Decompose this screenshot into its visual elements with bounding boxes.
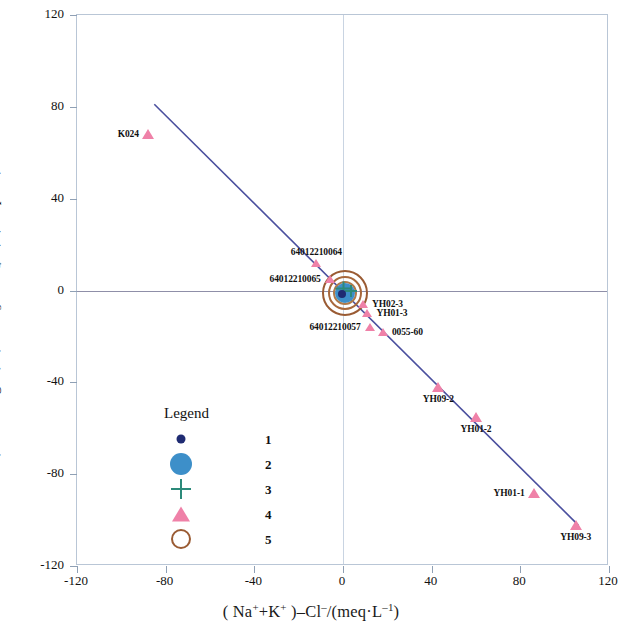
y-tick-label: 40 (0, 190, 64, 206)
data-point-label: 64012210057 (309, 322, 360, 332)
x-tick-mark (254, 566, 255, 573)
legend-item-label: 4 (265, 507, 272, 523)
filled-circle-icon (170, 453, 192, 475)
data-point-label: YH01-3 (376, 308, 407, 318)
data-point-label: YH09-2 (423, 394, 454, 404)
y-tick-label: -120 (0, 557, 64, 573)
legend-item-label: 1 (265, 432, 272, 448)
legend-item-2: 2 (162, 452, 327, 477)
open-circle-icon (171, 529, 191, 549)
legend-symbol-filled-circle-icon (162, 452, 202, 477)
legend-item-5: 5 (162, 527, 327, 552)
legend-item-label: 5 (265, 532, 272, 548)
data-point-label: K024 (118, 129, 139, 139)
legend-title: Legend (162, 405, 327, 422)
data-point-marker (142, 129, 154, 139)
data-point-marker (570, 520, 582, 530)
y-tick-mark (70, 199, 77, 200)
x-tick-mark (166, 566, 167, 573)
data-point-marker (358, 300, 368, 308)
data-point-marker (311, 259, 321, 267)
data-point-marker (528, 488, 540, 498)
x-tick-mark (343, 566, 344, 573)
y-tick-mark (70, 474, 77, 475)
data-point-marker (362, 309, 372, 317)
y-tick-mark (70, 15, 77, 16)
legend-symbol-dark-dot-icon (162, 427, 202, 452)
cluster-dark-dot (338, 290, 346, 298)
y-tick-mark (70, 291, 77, 292)
legend-item-4: 4 (162, 502, 327, 527)
legend-item-1: 1 (162, 427, 327, 452)
x-tick-label: -40 (245, 573, 262, 589)
data-point-label: YH01-1 (494, 488, 525, 498)
x-tick-mark (432, 566, 433, 573)
y-tick-label: 0 (0, 282, 64, 298)
legend-item-label: 2 (265, 457, 272, 473)
data-point-label: 64012210065 (270, 274, 321, 284)
x-tick-mark (520, 566, 521, 573)
x-tick-label: -80 (156, 573, 173, 589)
legend-symbol-triangle-icon (162, 502, 202, 527)
legend-item-label: 3 (265, 482, 272, 498)
cross-icon (171, 479, 191, 499)
legend-symbol-cross-icon (162, 477, 202, 502)
cluster-cross-marker-2 (345, 285, 357, 297)
y-tick-label: 120 (0, 6, 64, 22)
data-point-label: 0055-60 (392, 327, 423, 337)
y-axis-title: ( Ca2++Mg2+ )–( HCO3–+SO42– )/(meq·L–1) (0, 168, 2, 459)
data-point-marker (365, 323, 375, 331)
y-tick-mark (70, 382, 77, 383)
data-point-marker (325, 275, 335, 283)
x-tick-mark (609, 566, 610, 573)
y-tick-mark (70, 107, 77, 108)
x-tick-label: 80 (513, 573, 526, 589)
data-point-label: YH09-3 (560, 532, 591, 542)
dark-dot-icon (177, 435, 186, 444)
x-tick-label: 0 (339, 573, 346, 589)
data-point-marker (432, 382, 444, 392)
legend-item-3: 3 (162, 477, 327, 502)
legend-rows: 12345 (162, 427, 327, 552)
x-tick-label: -120 (64, 573, 88, 589)
x-tick-label: 40 (424, 573, 437, 589)
plot-area: K0246401221006464012210065YH02-3YH01-364… (76, 14, 608, 565)
data-point-label: 64012210064 (291, 247, 342, 257)
legend-symbol-open-circle-icon (162, 527, 202, 552)
x-tick-mark (77, 566, 78, 573)
data-point-marker (378, 328, 388, 336)
legend: Legend 12345 (162, 405, 327, 552)
y-tick-label: -40 (0, 373, 64, 389)
scatter-plot-figure: ( Ca2++Mg2+ )–( HCO3–+SO42– )/(meq·L–1) … (0, 0, 622, 628)
y-tick-label: -80 (0, 465, 64, 481)
y-tick-label: 80 (0, 98, 64, 114)
x-axis-title: ( Na++K+ )–Cl–/(meq·L–1) (223, 602, 400, 622)
x-tick-label: 120 (598, 573, 618, 589)
data-point-label: YH01-2 (460, 424, 491, 434)
y-tick-mark (70, 566, 77, 567)
data-point-marker (470, 412, 482, 422)
triangle-icon (172, 507, 190, 522)
